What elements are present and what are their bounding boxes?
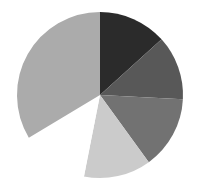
pie-chart-canvas bbox=[0, 0, 204, 196]
pie-chart bbox=[0, 0, 204, 196]
